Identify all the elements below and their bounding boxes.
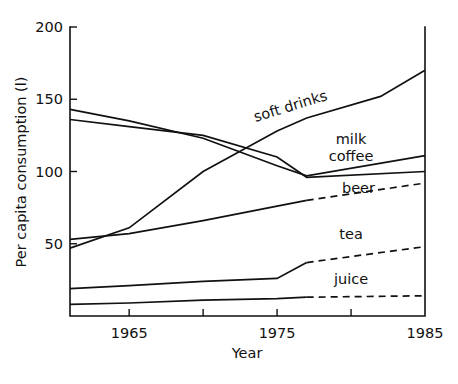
series-label-milk: milk — [336, 131, 367, 147]
line-chart-canvas: 50100150200 196519751985 soft drinksmilk… — [0, 0, 458, 384]
x-tick-label: 1965 — [111, 325, 148, 341]
y-tick-label: 100 — [35, 164, 63, 180]
series-label-tea: tea — [339, 226, 363, 242]
y-tick-label: 50 — [45, 236, 63, 252]
chart-background — [0, 0, 458, 384]
y-tick-label: 150 — [35, 91, 63, 107]
series-label-coffee: coffee — [329, 148, 374, 164]
x-axis-title: Year — [231, 345, 263, 361]
series-label-beer: beer — [342, 180, 375, 196]
series-label-juice: juice — [333, 271, 368, 287]
y-tick-label: 200 — [35, 19, 63, 35]
y-axis-title: Per capita consumption (l) — [13, 77, 29, 268]
chart-figure: 50100150200 196519751985 soft drinksmilk… — [0, 0, 458, 384]
x-tick-label: 1975 — [259, 325, 296, 341]
x-tick-label: 1985 — [407, 325, 444, 341]
